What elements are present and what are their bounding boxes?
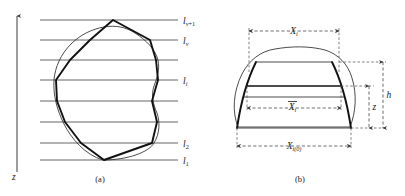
dim-label-Xi0: Xi(0) [286,141,302,153]
segment-flank-right [332,62,351,128]
dim-label-Xibar: Xi [288,102,297,113]
dim-label-Xi: Xi [289,26,298,37]
level-label-li: li [183,76,188,87]
body-outline-polygon [56,20,158,160]
body-outline-smooth [54,26,159,160]
level-lines [40,20,178,160]
level-label-l2: l2 [183,139,189,150]
figure-container: lν+1 lν li l2 l1 z (a) [0,0,405,196]
level-labels: lν+1 lν li l2 l1 [183,16,195,167]
dim-label-z: z [372,102,377,112]
z-axis-label: z [11,172,16,182]
panel-a: lν+1 lν li l2 l1 z (a) [11,16,195,185]
caption-panel-a: (a) [95,174,105,184]
panel-b: Xi Xi Xi(0) [234,26,391,184]
level-label-lnu1: lν+1 [183,16,195,27]
segment-flank-left [237,62,256,128]
segment-outline-smooth [234,47,355,127]
caption-panel-b: (b) [295,174,305,184]
scientific-figure: lν+1 lν li l2 l1 z (a) [0,0,405,196]
dim-label-Xibar-group: Xi [288,102,297,114]
dim-label-h: h [387,90,392,100]
level-label-lnu: lν [183,36,189,47]
level-label-l1: l1 [183,156,189,167]
